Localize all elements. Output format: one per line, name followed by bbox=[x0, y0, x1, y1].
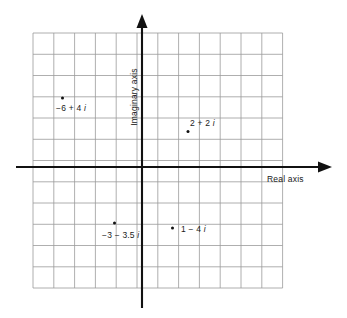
plot-canvas: Real axis Imaginary axis −6 + 4 i 2 + 2 … bbox=[0, 0, 347, 318]
data-point-neg6-plus-4i: −6 + 4 i bbox=[56, 97, 87, 114]
point-label: −6 + 4 i bbox=[56, 103, 87, 113]
data-point-2-plus-2i: 2 + 2 i bbox=[187, 118, 216, 133]
point-label: 1 − 4 i bbox=[181, 224, 207, 234]
point-label-text: 1 − 4 bbox=[181, 224, 204, 234]
point-marker bbox=[187, 130, 190, 133]
complex-plane-figure: Real axis Imaginary axis −6 + 4 i 2 + 2 … bbox=[0, 0, 347, 318]
point-label: 2 + 2 i bbox=[190, 118, 216, 128]
point-label-text: −3 − 3.5 bbox=[102, 230, 137, 240]
imaginary-axis bbox=[137, 14, 148, 308]
point-label-text: −6 + 4 bbox=[56, 103, 84, 113]
imaginary-unit-i: i bbox=[213, 118, 216, 128]
imaginary-axis-arrowhead bbox=[137, 14, 148, 28]
imaginary-unit-i: i bbox=[204, 224, 207, 234]
point-marker bbox=[61, 97, 64, 100]
imaginary-unit-i: i bbox=[84, 103, 87, 113]
point-label-text: 2 + 2 bbox=[190, 118, 213, 128]
point-marker bbox=[171, 227, 174, 230]
real-axis-label: Real axis bbox=[267, 174, 304, 184]
grid bbox=[33, 33, 283, 288]
imaginary-axis-label: Imaginary axis bbox=[129, 68, 139, 126]
point-label: −3 − 3.5 i bbox=[102, 230, 140, 240]
real-axis-arrowhead bbox=[318, 162, 332, 173]
data-point-1-minus-4i: 1 − 4 i bbox=[171, 224, 207, 234]
point-marker bbox=[113, 222, 116, 225]
imaginary-unit-i: i bbox=[137, 230, 140, 240]
real-axis bbox=[16, 162, 332, 173]
